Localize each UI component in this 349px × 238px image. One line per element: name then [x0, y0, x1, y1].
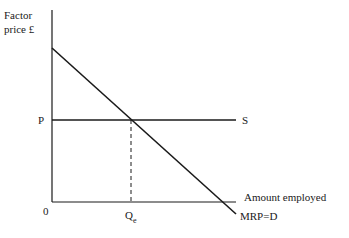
y-axis-label-line1: Factor — [4, 8, 34, 22]
quantity-label: Qe — [125, 209, 137, 223]
y-axis-label: Factor price £ — [4, 8, 34, 36]
quantity-label-main: Q — [125, 209, 133, 221]
price-label: P — [38, 114, 44, 127]
origin-label: 0 — [43, 205, 49, 218]
supply-label: S — [242, 114, 248, 127]
x-axis-label: Amount employed — [244, 191, 326, 204]
quantity-label-subscript: e — [133, 216, 137, 225]
demand-line — [52, 48, 236, 214]
y-axis-label-line2: price £ — [4, 22, 34, 36]
demand-label: MRP=D — [240, 210, 277, 223]
